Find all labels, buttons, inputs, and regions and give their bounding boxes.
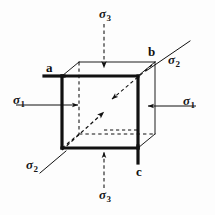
sigma2-top-right-label: σ2 xyxy=(168,53,180,69)
vertex-label-c: c xyxy=(136,165,142,178)
sigma3-top-label: σ3 xyxy=(99,7,111,23)
sigma1-left-label: σ1 xyxy=(13,93,25,109)
stress-cube-figure: σ3 σ3 σ1 σ1 σ2 σ2 a b c xyxy=(0,0,215,215)
sigma3-bottom-label: σ3 xyxy=(99,188,111,204)
sigma2-bottom-left-label: σ2 xyxy=(26,158,38,174)
vertex-label-a: a xyxy=(46,61,53,74)
sigma1-right-label: σ1 xyxy=(183,94,195,110)
vertex-label-b: b xyxy=(148,45,155,58)
